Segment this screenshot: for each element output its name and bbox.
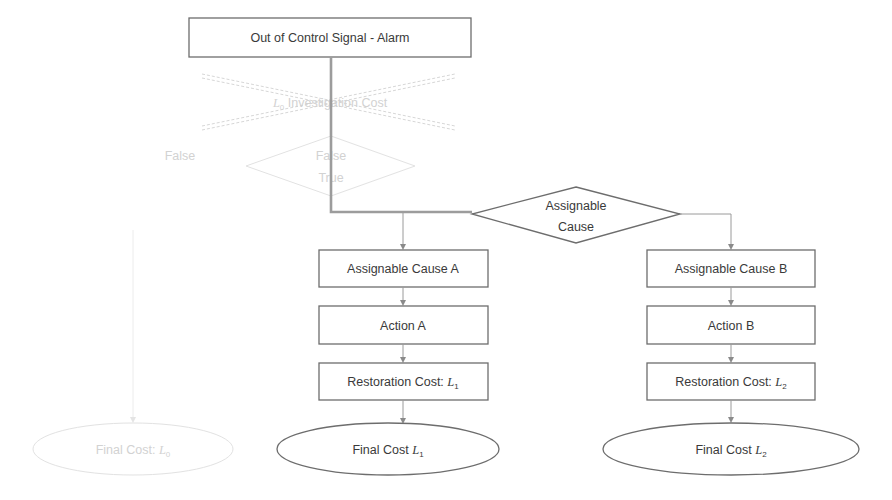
faint-final-cost-label: Final Cost: L0: [96, 443, 171, 459]
action-b-label: Action B: [708, 319, 755, 333]
assignable-cause-a-label: Assignable Cause A: [347, 262, 460, 276]
crossed-out-investigation-step: L0 Investigation Cost: [202, 74, 455, 130]
final-cost-a-label: Final Cost L1: [352, 443, 424, 459]
decision-label-line1: Assignable: [545, 199, 606, 213]
assignable-cause-b-label: Assignable Cause B: [675, 262, 788, 276]
alarm-label: Out of Control Signal - Alarm: [250, 31, 409, 45]
flowchart-canvas: L0 Investigation Cost False True False F…: [0, 0, 892, 500]
branch-a: Assignable Cause A Action A Restoration …: [277, 250, 499, 475]
alarm-node: Out of Control Signal - Alarm: [189, 18, 471, 57]
decision-to-cause-b-connector: [680, 214, 731, 247]
branch-b: Assignable Cause B Action B Restoration …: [603, 250, 859, 475]
restoration-cost-b-label: Restoration Cost: L2: [675, 375, 787, 391]
action-a-label: Action A: [380, 319, 427, 333]
restoration-cost-a-label: Restoration Cost: L1: [347, 375, 459, 391]
final-cost-b-label: Final Cost L2: [695, 443, 767, 459]
decision-label-line2: Cause: [558, 220, 594, 234]
assignable-cause-decision: Assignable Cause: [472, 187, 680, 243]
faint-false-branch-label: False: [165, 149, 196, 163]
